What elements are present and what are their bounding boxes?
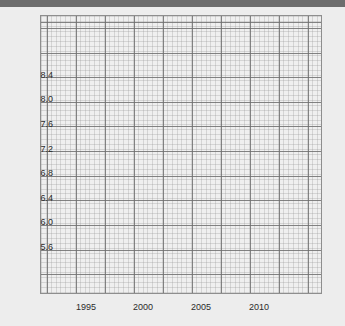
y-axis-tick-label: 8.0 [13, 95, 53, 104]
x-axis-tick-label: 1995 [66, 303, 106, 312]
x-axis-tick-label: 2010 [239, 303, 279, 312]
y-axis-tick-label: 8.4 [13, 71, 53, 80]
y-axis-tick-label: 5.6 [13, 243, 53, 252]
major-gridlines [41, 16, 321, 293]
y-axis-tick-label: 6.0 [13, 218, 53, 227]
y-axis-tick-label: 6.8 [13, 169, 53, 178]
x-axis-tick-label: 2005 [181, 303, 221, 312]
chart-figure: 8.48.07.67.26.86.46.05.61995200020052010 [0, 7, 345, 326]
x-axis-tick-label: 2000 [123, 303, 163, 312]
top-dark-band [0, 0, 345, 7]
y-axis-tick-label: 7.6 [13, 120, 53, 129]
plot-area [40, 15, 322, 294]
minor-gridlines [41, 16, 321, 293]
y-axis-tick-label: 6.4 [13, 194, 53, 203]
y-axis-tick-label: 7.2 [13, 145, 53, 154]
